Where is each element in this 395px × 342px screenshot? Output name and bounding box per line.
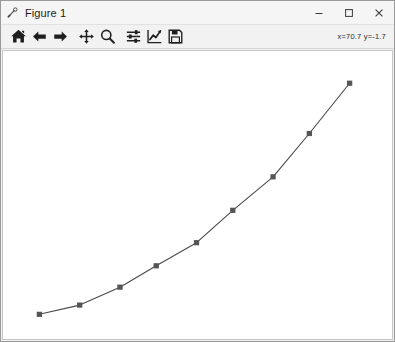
forward-button[interactable] <box>50 26 71 47</box>
data-point-marker <box>117 285 122 290</box>
data-markers <box>37 81 353 317</box>
maximize-button[interactable] <box>334 1 364 24</box>
data-point-marker <box>154 263 159 268</box>
data-point-marker <box>307 131 312 136</box>
home-button[interactable] <box>8 26 29 47</box>
close-icon <box>373 7 385 19</box>
maximize-icon <box>343 7 355 19</box>
figure-canvas[interactable] <box>2 50 393 340</box>
configure-subplots-icon <box>125 28 142 45</box>
edit-axis-curve-icon <box>146 28 163 45</box>
home-icon <box>10 28 27 45</box>
save-figure-button[interactable] <box>165 26 186 47</box>
forward-arrow-icon <box>52 28 69 45</box>
minimize-button[interactable] <box>304 1 334 24</box>
zoom-button[interactable] <box>97 26 118 47</box>
data-point-marker <box>347 81 352 86</box>
plot-svg <box>3 51 392 339</box>
save-floppy-icon <box>167 28 184 45</box>
back-button[interactable] <box>29 26 50 47</box>
navigation-toolbar: x=70.7 y=-1.7 <box>1 25 394 49</box>
configure-subplots-button[interactable] <box>123 26 144 47</box>
data-point-marker <box>230 208 235 213</box>
zoom-magnifier-icon <box>99 28 116 45</box>
data-point-marker <box>270 174 275 179</box>
edit-parameters-button[interactable] <box>144 26 165 47</box>
figure-window: Figure 1 <box>0 0 395 342</box>
data-point-marker <box>194 240 199 245</box>
data-line <box>39 83 349 314</box>
matplotlib-icon <box>7 6 20 19</box>
pan-button[interactable] <box>76 26 97 47</box>
pan-move-icon <box>78 28 95 45</box>
minimize-icon <box>313 7 325 19</box>
data-point-marker <box>37 312 42 317</box>
back-arrow-icon <box>31 28 48 45</box>
window-title: Figure 1 <box>25 7 304 19</box>
window-titlebar: Figure 1 <box>1 1 394 25</box>
coordinate-readout: x=70.7 y=-1.7 <box>338 32 390 41</box>
data-point-marker <box>77 302 82 307</box>
close-button[interactable] <box>364 1 394 24</box>
